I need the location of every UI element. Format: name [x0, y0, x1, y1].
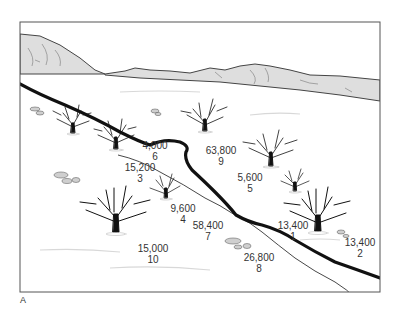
site-2-value: 13,400 — [345, 237, 376, 248]
site-3-value: 15,200 — [125, 162, 156, 173]
site-label-6: 4,000 6 — [142, 140, 167, 162]
site-10-value: 15,000 — [138, 243, 169, 254]
site-label-9: 63,800 9 — [206, 145, 237, 167]
site-8-number: 8 — [244, 263, 275, 274]
site-label-1: 13,400 1 — [278, 220, 309, 242]
site-2-number: 2 — [345, 248, 376, 259]
site-label-5: 5,600 5 — [237, 172, 262, 194]
site-label-7: 58,400 7 — [193, 220, 224, 242]
site-1-number: 1 — [278, 231, 309, 242]
site-7-value: 58,400 — [193, 220, 224, 231]
site-3-number: 3 — [125, 173, 156, 184]
site-label-10: 15,000 10 — [138, 243, 169, 265]
mountain-left — [20, 34, 105, 74]
mountain-range-right — [105, 64, 380, 101]
panel-letter: A — [20, 295, 26, 305]
site-10-number: 10 — [138, 254, 169, 265]
site-label-2: 13,400 2 — [345, 237, 376, 259]
site-6-number: 6 — [142, 151, 167, 162]
site-9-value: 63,800 — [206, 145, 237, 156]
site-8-value: 26,800 — [244, 252, 275, 263]
landscape-figure: 4,000 6 63,800 9 15,200 3 5,600 5 9,600 … — [0, 0, 395, 311]
site-label-3: 15,200 3 — [125, 162, 156, 184]
site-9-number: 9 — [206, 156, 237, 167]
site-6-value: 4,000 — [142, 140, 167, 151]
site-1-value: 13,400 — [278, 220, 309, 231]
site-5-value: 5,600 — [237, 172, 262, 183]
site-label-8: 26,800 8 — [244, 252, 275, 274]
landscape-illustration — [0, 0, 395, 311]
site-7-number: 7 — [193, 231, 224, 242]
site-5-number: 5 — [237, 183, 262, 194]
site-4-value: 9,600 — [170, 203, 195, 214]
